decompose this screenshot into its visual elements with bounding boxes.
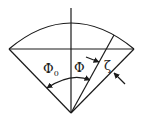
phi0-label: Φ0	[43, 61, 59, 78]
sector-diagram: Φ0 Φ ζ	[0, 0, 143, 119]
left-radius	[9, 49, 71, 113]
zeta-label: ζ	[104, 58, 111, 73]
zeta-arrow-upper	[86, 57, 99, 62]
right-radius	[71, 49, 134, 113]
phi-label: Φ	[74, 60, 85, 75]
zeta-arrow-lower	[114, 73, 125, 84]
angle-arc-phi	[47, 77, 90, 88]
